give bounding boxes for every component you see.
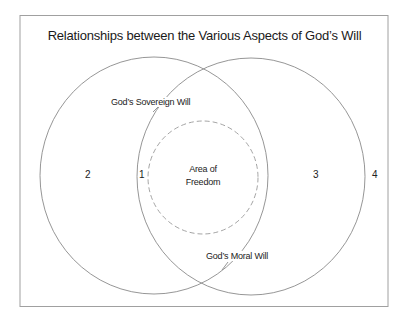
area-of-freedom-line2: Freedom xyxy=(173,177,233,187)
region-1-label: 1 xyxy=(139,169,145,180)
venn-diagram xyxy=(0,0,409,320)
region-3-label: 3 xyxy=(313,169,319,180)
diagram-title: Relationships between the Various Aspect… xyxy=(0,28,409,43)
region-2-label: 2 xyxy=(85,169,91,180)
area-of-freedom-line1: Area of xyxy=(173,164,233,174)
region-4-label: 4 xyxy=(372,169,378,180)
moral-will-label: God’s Moral Will xyxy=(205,251,269,261)
sovereign-will-label: God’s Sovereign Will xyxy=(110,97,191,107)
frame-border xyxy=(20,16,388,307)
